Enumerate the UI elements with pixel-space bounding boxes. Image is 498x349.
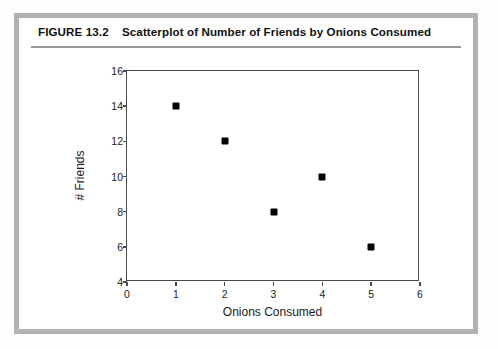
y-axis-label: # Friends <box>71 70 89 281</box>
plot-area: 46810121416 0123456 <box>126 70 419 281</box>
y-tick-mark <box>123 70 127 72</box>
x-tick-label: 2 <box>222 288 228 300</box>
x-tick-mark <box>126 282 128 286</box>
y-tick-mark <box>123 246 127 248</box>
y-tick-label: 4 <box>117 276 123 288</box>
x-tick-mark <box>224 282 226 286</box>
y-tick-label: 6 <box>117 241 123 253</box>
y-tick-label: 10 <box>111 171 123 183</box>
x-axis-label: Onions Consumed <box>126 305 419 319</box>
data-point <box>221 138 228 145</box>
y-tick-label: 14 <box>111 100 123 112</box>
y-tick-mark <box>123 176 127 178</box>
x-tick-mark <box>175 282 177 286</box>
figure-frame: FIGURE 13.2 Scatterplot of Number of Fri… <box>14 13 478 334</box>
data-point <box>319 173 326 180</box>
y-tick-label: 16 <box>111 65 123 77</box>
x-tick-label: 3 <box>271 288 277 300</box>
x-tick-label: 6 <box>417 288 423 300</box>
y-tick-label: 12 <box>111 135 123 147</box>
data-point <box>368 243 375 250</box>
data-point <box>172 103 179 110</box>
x-tick-mark <box>370 282 372 286</box>
x-tick-label: 0 <box>124 288 130 300</box>
y-tick-mark <box>123 141 127 143</box>
x-tick-mark <box>419 282 421 286</box>
x-tick-mark <box>273 282 275 286</box>
x-tick-label: 4 <box>319 288 325 300</box>
scatter-chart: # Friends Onions Consumed 46810121416 01… <box>19 18 473 329</box>
x-tick-mark <box>322 282 324 286</box>
figure-root: FIGURE 13.2 Scatterplot of Number of Fri… <box>0 0 498 349</box>
y-tick-label: 8 <box>117 206 123 218</box>
y-tick-mark <box>123 211 127 213</box>
y-tick-mark <box>123 105 127 107</box>
x-tick-label: 5 <box>368 288 374 300</box>
data-point <box>270 208 277 215</box>
x-tick-label: 1 <box>173 288 179 300</box>
